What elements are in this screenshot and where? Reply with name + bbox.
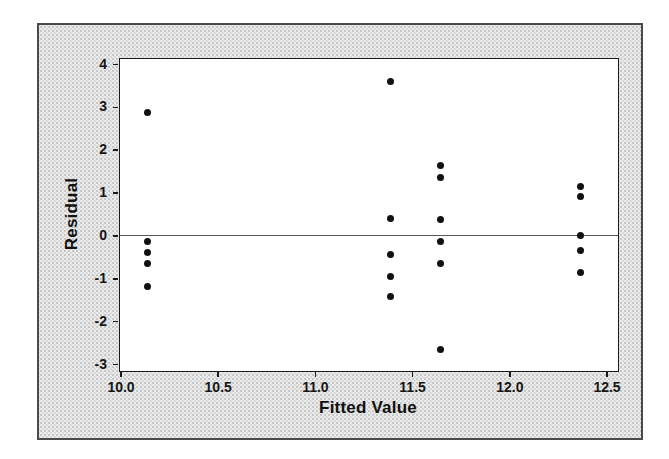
x-axis-title: Fitted Value [119,398,617,418]
data-point [387,273,394,280]
plot-panel: Residual 10.010.511.011.512.012.543210-1… [37,23,643,440]
x-tick-label: 11.5 [391,379,435,395]
data-point [144,249,151,256]
data-point [437,260,444,267]
zero-reference-line [120,235,618,236]
y-tick-label: 0 [63,227,107,243]
data-point [437,162,444,169]
data-point [577,232,584,239]
x-tick-label: 12.5 [585,379,629,395]
data-point [437,238,444,245]
x-tick-mark [509,372,511,377]
data-point [387,215,394,222]
y-tick-label: -1 [63,270,107,286]
y-tick-label: -3 [63,356,107,372]
y-tick-label: 2 [63,141,107,157]
x-tick-mark [412,372,414,377]
y-tick-mark [113,235,118,237]
x-tick-label: 12.0 [488,379,532,395]
data-point [437,216,444,223]
data-point [577,269,584,276]
y-tick-mark [113,64,118,66]
plot-area [119,58,619,372]
data-point [387,293,394,300]
x-tick-mark [217,372,219,377]
data-point [437,174,444,181]
data-point [577,183,584,190]
y-tick-mark [113,192,118,194]
y-tick-mark [113,107,118,109]
data-point [144,109,151,116]
x-tick-label: 11.0 [293,379,337,395]
x-tick-label: 10.5 [196,379,240,395]
data-point [387,251,394,258]
data-point [387,78,394,85]
y-tick-mark [113,149,118,151]
x-tick-mark [315,372,317,377]
data-point [144,238,151,245]
y-tick-label: -2 [63,313,107,329]
data-point [437,346,444,353]
data-point [577,193,584,200]
data-point [144,260,151,267]
y-tick-label: 4 [63,56,107,72]
y-tick-label: 1 [63,184,107,200]
x-tick-mark [120,372,122,377]
x-tick-mark [606,372,608,377]
y-tick-mark [113,321,118,323]
x-tick-label: 10.0 [99,379,143,395]
y-tick-mark [113,278,118,280]
data-point [577,247,584,254]
y-tick-label: 3 [63,98,107,114]
data-point [144,283,151,290]
y-tick-mark [113,364,118,366]
